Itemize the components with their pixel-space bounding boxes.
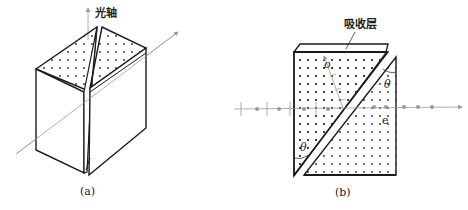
caption-a: (a): [80, 185, 95, 198]
absorber-label: 吸收层: [344, 17, 377, 31]
o-ray-label: o: [324, 58, 331, 71]
figure-a-prism: 光轴 (a): [16, 6, 178, 198]
e-ray-label: e: [382, 114, 389, 127]
incident-ray: [234, 107, 462, 109]
angle-bottom-label: θ: [300, 141, 307, 154]
figure-b-prism: 吸收层 o e θ θ (b): [234, 17, 462, 199]
optic-axis-label: 光轴: [94, 6, 117, 20]
angle-top-label: θ: [384, 78, 391, 91]
absorber-layer: [294, 44, 388, 52]
caption-b: (b): [335, 186, 351, 199]
